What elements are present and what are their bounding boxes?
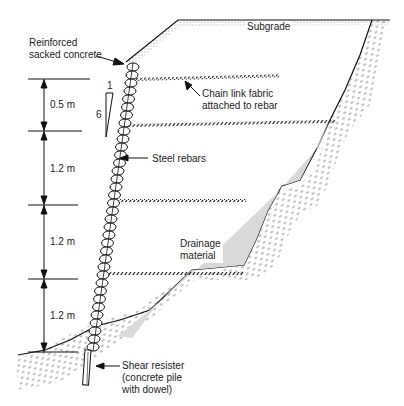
label-sacked-concrete: Reinforced sacked concrete	[29, 37, 102, 61]
label-drainage: Drainage material	[178, 237, 223, 263]
label-line: with dowel)	[122, 384, 184, 396]
label-line: Shear resister	[122, 360, 184, 372]
label-line: Chain link fabric	[202, 88, 278, 100]
slope-run-label: 1	[107, 80, 113, 91]
label-steel-rebars: Steel rebars	[152, 153, 206, 165]
label-chain-link: Chain link fabric attached to rebar	[202, 88, 278, 112]
dimension-label: 1.2 m	[50, 310, 75, 321]
label-line: attached to rebar	[202, 100, 278, 112]
label-line: sacked concrete	[29, 49, 102, 61]
label-line: Reinforced	[29, 37, 102, 49]
label-shear-resister: Shear resister (concrete pile with dowel…	[122, 360, 184, 396]
dimension-label: 1.2 m	[50, 163, 75, 174]
slope-indicator	[106, 93, 113, 137]
steel-rebar-line	[93, 63, 133, 351]
label-line: (concrete pile	[122, 372, 184, 384]
dimension-label: 0.5 m	[50, 99, 75, 110]
dimension-label: 1.2 m	[50, 236, 75, 247]
label-subgrade: Subgrade	[245, 21, 292, 33]
label-line: material	[180, 250, 221, 262]
slope-rise-label: 6	[96, 109, 102, 120]
label-line: Drainage	[180, 238, 221, 250]
